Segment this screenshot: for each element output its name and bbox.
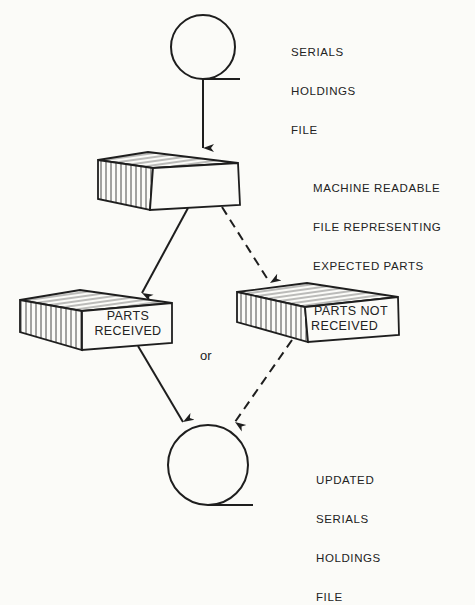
or-connector-text: or xyxy=(200,348,212,363)
label-line: FILE xyxy=(291,124,356,137)
expected-parts-deck-icon xyxy=(98,152,240,210)
label-line: SERIALS xyxy=(316,513,381,526)
label-line: HOLDINGS xyxy=(316,552,381,565)
label-line: MACHINE READABLE xyxy=(313,182,441,195)
label-line: HOLDINGS xyxy=(291,85,356,98)
arrow-expected-to-not-received xyxy=(222,207,270,283)
deck-text-line: PARTS xyxy=(86,309,170,324)
parts-not-received-text: PARTS NOT RECEIVED xyxy=(309,304,397,334)
top-tape-label: SERIALS HOLDINGS FILE xyxy=(291,20,356,150)
deck-text-line: RECEIVED xyxy=(309,319,397,334)
label-line: EXPECTED PARTS xyxy=(313,260,441,273)
deck-text-line: RECEIVED xyxy=(86,324,170,339)
label-line: UPDATED xyxy=(316,474,381,487)
label-line: FILE xyxy=(316,591,381,604)
bottom-tape-icon xyxy=(168,425,253,505)
arrow-not-received-to-updated xyxy=(235,340,292,422)
updated-tape-label: UPDATED SERIALS HOLDINGS FILE xyxy=(316,448,381,605)
label-line: FILE REPRESENTING xyxy=(313,221,441,234)
top-tape-icon xyxy=(171,15,240,79)
arrow-expected-to-received xyxy=(142,208,188,293)
expected-parts-label: MACHINE READABLE FILE REPRESENTING EXPEC… xyxy=(313,156,441,286)
label-line: SERIALS xyxy=(291,46,356,59)
arrow-received-to-updated xyxy=(138,346,183,422)
parts-received-text: PARTS RECEIVED xyxy=(86,309,170,339)
deck-text-line: PARTS NOT xyxy=(309,304,397,319)
